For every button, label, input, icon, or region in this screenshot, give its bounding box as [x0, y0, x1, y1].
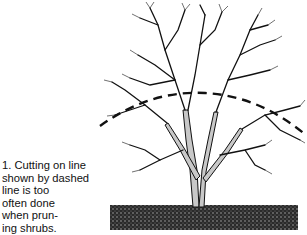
shrub-branches: [112, 5, 300, 170]
caption-line: when prun-: [2, 209, 112, 222]
caption-line: often done: [2, 197, 112, 210]
ground-block: [110, 205, 298, 230]
figure-caption: 1. Cutting on line shown by dashed line …: [2, 159, 112, 235]
shrub-twigs: [104, 2, 305, 174]
caption-line: 1. Cutting on line: [2, 159, 112, 172]
shrub-stems: [165, 110, 243, 207]
dashed-cut-line: [100, 93, 307, 136]
caption-line: shown by dashed: [2, 172, 112, 185]
caption-line: line is too: [2, 184, 112, 197]
caption-line: ing shrubs.: [2, 222, 112, 235]
